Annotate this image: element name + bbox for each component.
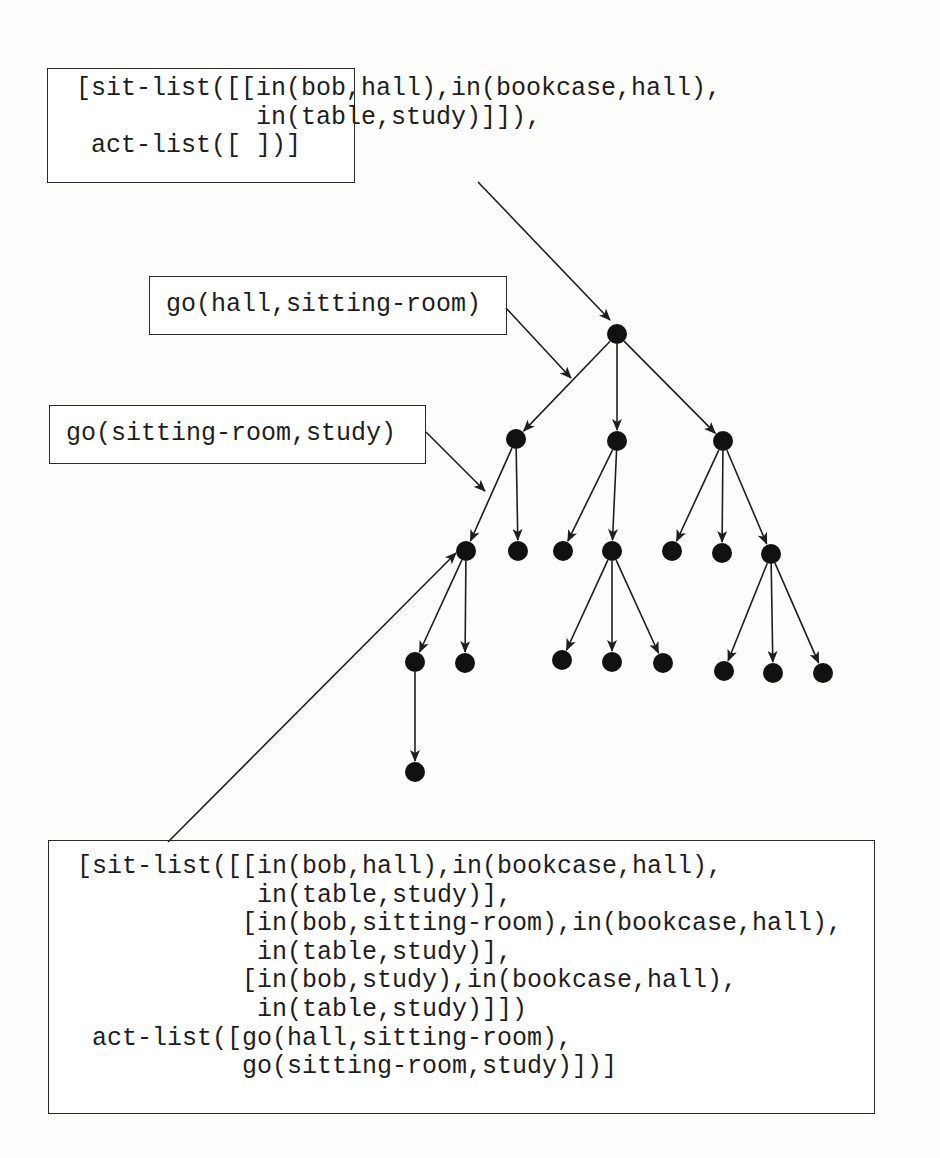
- tree-node: [713, 431, 733, 451]
- tree-edge-arrow: [465, 561, 466, 652]
- pointer-arrow-action-2: [426, 432, 485, 491]
- tree-edge-arrow: [516, 449, 518, 540]
- tree-edge-arrow: [677, 450, 719, 541]
- tree-edge-arrow: [420, 560, 462, 652]
- tree-node: [607, 431, 627, 451]
- tree-node: [761, 544, 781, 564]
- tree-node: [506, 429, 526, 449]
- tree-node: [455, 653, 475, 673]
- action-go-hall-sitting-room-box: go(hall,sitting-room): [149, 276, 507, 335]
- tree-edge-arrow: [727, 450, 767, 544]
- pointer-arrow-action-1: [506, 308, 571, 378]
- action-1-text: go(hall,sitting-room): [166, 291, 506, 320]
- tree-node: [813, 663, 833, 683]
- tree-node: [553, 541, 573, 561]
- tree-node: [405, 652, 425, 672]
- tree-edge-arrow: [771, 564, 773, 662]
- tree-node: [763, 663, 783, 683]
- tree-node: [712, 543, 732, 563]
- action-2-text: go(sitting-room,study): [66, 420, 425, 449]
- tree-nodes: [405, 324, 833, 782]
- pointer-arrow-goal-state: [168, 553, 456, 842]
- tree-edge-arrow: [524, 341, 610, 431]
- tree-edge-arrow: [722, 451, 723, 542]
- action-go-sitting-room-study-box: go(sitting-room,study): [49, 405, 426, 464]
- initial-state-text: [sit-list([[in(bob,hall),in(bookcase,hal…: [76, 75, 354, 161]
- tree-edge-arrow: [616, 560, 658, 653]
- tree-edge-arrow: [567, 560, 608, 650]
- tree-node: [552, 650, 572, 670]
- tree-edges: [415, 341, 819, 761]
- initial-state-box: [sit-list([[in(bob,hall),in(bookcase,hal…: [47, 68, 355, 183]
- tree-node: [456, 541, 476, 561]
- tree-node: [405, 762, 425, 782]
- tree-node: [714, 661, 734, 681]
- tree-edge-arrow: [470, 448, 511, 541]
- tree-edge-arrow: [775, 563, 819, 663]
- tree-node: [508, 541, 528, 561]
- goal-state-box: [sit-list([[in(bob,hall),in(bookcase,hal…: [48, 840, 875, 1114]
- tree-edge-arrow: [612, 451, 616, 540]
- tree-node: [607, 324, 627, 344]
- tree-edge-arrow: [624, 341, 715, 433]
- tree-node: [602, 541, 622, 561]
- tree-node: [602, 652, 622, 672]
- goal-state-text: [sit-list([[in(bob,hall),in(bookcase,hal…: [77, 853, 874, 1082]
- tree-edge-arrow: [568, 450, 613, 541]
- tree-node: [653, 653, 673, 673]
- tree-edge-arrow: [728, 563, 767, 661]
- tree-node: [662, 541, 682, 561]
